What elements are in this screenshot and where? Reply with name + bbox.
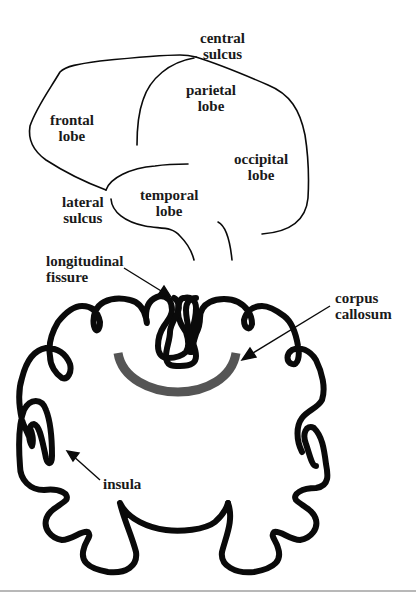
insula-arrow-line xyxy=(72,455,100,480)
corpus-callosum-arrowhead xyxy=(242,348,256,360)
label-central-sulcus: central sulcus xyxy=(200,30,245,62)
label-temporal-lobe: temporal lobe xyxy=(140,187,198,219)
label-lateral-sulcus: lateral sulcus xyxy=(62,194,104,226)
longitudinal-fissure-arrowhead xyxy=(158,286,171,297)
label-longitudinal-fissure: longitudinal fissure xyxy=(46,253,124,285)
label-occipital-lobe: occipital lobe xyxy=(234,151,288,183)
right-hemisphere-outline xyxy=(184,297,327,572)
brainstem-line xyxy=(218,222,232,260)
label-parietal-lobe: parietal lobe xyxy=(186,82,236,114)
longitudinal-fissure-arrow-line xyxy=(124,268,166,294)
bottom-divider xyxy=(0,590,416,592)
label-insula: insula xyxy=(103,476,141,492)
coronal-view xyxy=(19,296,327,572)
label-frontal-lobe: frontal lobe xyxy=(50,112,94,144)
label-corpus-callosum: corpus callosum xyxy=(335,290,392,322)
